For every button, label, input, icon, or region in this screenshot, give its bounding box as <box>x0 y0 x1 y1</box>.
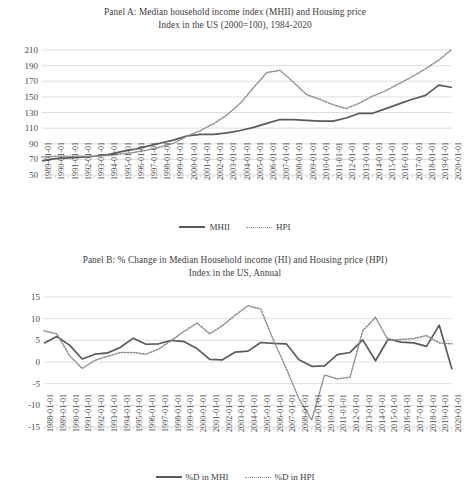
x-axis-tick-label: 2007-01-01 <box>283 142 291 180</box>
panel-b-title: Panel B: % Change in Median Household in… <box>0 250 470 279</box>
panel-a-title-line1: Panel A: Median household income index (… <box>0 6 470 19</box>
x-axis-tick-label: 1993-01-01 <box>98 142 106 180</box>
x-axis-tick-label: 2017-01-01 <box>416 142 424 180</box>
dotted-line-swatch-icon <box>245 477 271 478</box>
x-axis-tick-label: 1992-01-01 <box>85 142 93 180</box>
x-axis-tick-label: 1993-01-01 <box>111 394 119 432</box>
x-axis-tick-label: 2012-01-01 <box>353 394 361 432</box>
x-axis-tick-label: 2003-01-01 <box>230 142 238 180</box>
x-axis-tick-label: 2017-01-01 <box>417 394 425 432</box>
x-axis-tick-label: 1999-01-01 <box>187 394 195 432</box>
x-axis-tick-label: 2020-01-01 <box>455 394 463 432</box>
panel-a-chart <box>0 31 470 211</box>
x-axis-tick-label: 2019-01-01 <box>442 142 450 180</box>
x-axis-tick-label: 1990-01-01 <box>73 394 81 432</box>
panel-b: Panel B: % Change in Median Household in… <box>0 250 470 498</box>
legend-label: %D in MHI <box>186 472 229 482</box>
x-axis-tick-label: 2014-01-01 <box>379 394 387 432</box>
x-axis-tick-label: 2007-01-01 <box>289 394 297 432</box>
x-axis-tick-label: 2013-01-01 <box>366 394 374 432</box>
panel-a-legend-item[interactable]: MHII <box>179 222 230 232</box>
panel-a-legend-item[interactable]: HPI <box>246 222 291 232</box>
x-axis-tick-label: 2006-01-01 <box>277 394 285 432</box>
x-axis-tick-label: 2018-01-01 <box>430 394 438 432</box>
panel-b-legend-item[interactable]: %D in MHI <box>156 472 229 482</box>
x-axis-tick-label: 1992-01-01 <box>98 394 106 432</box>
x-axis-tick-label: 2018-01-01 <box>429 142 437 180</box>
solid-line-swatch-icon <box>179 226 205 228</box>
panel-b-plot-area: -15-10-50510151988-01-011989-01-011990-0… <box>0 279 470 459</box>
x-axis-tick-label: 2003-01-01 <box>238 394 246 432</box>
x-axis-tick-label: 2009-01-01 <box>315 394 323 432</box>
x-axis-tick-label: 2016-01-01 <box>402 142 410 180</box>
x-axis-tick-label: 2015-01-01 <box>391 394 399 432</box>
y-axis-tick-label: 90 <box>29 139 38 148</box>
y-axis-tick-label: 50 <box>29 171 38 180</box>
x-axis-tick-label: 2008-01-01 <box>302 394 310 432</box>
legend-label: HPI <box>276 222 291 232</box>
x-axis-tick-label: 1997-01-01 <box>162 394 170 432</box>
x-axis-tick-label: 2012-01-01 <box>349 142 357 180</box>
x-axis-tick-label: 2000-01-01 <box>191 142 199 180</box>
x-axis-tick-label: 2002-01-01 <box>217 142 225 180</box>
x-axis-tick-label: 1990-01-01 <box>58 142 66 180</box>
x-axis-tick-label: 2002-01-01 <box>226 394 234 432</box>
y-axis-tick-label: 0 <box>36 358 41 367</box>
y-axis-tick-label: 110 <box>25 124 38 133</box>
x-axis-tick-label: 2004-01-01 <box>251 394 259 432</box>
x-axis-tick-label: 1995-01-01 <box>136 394 144 432</box>
y-axis-tick-label: 70 <box>29 155 38 164</box>
x-axis-tick-label: 2005-01-01 <box>257 142 265 180</box>
x-axis-tick-label: 2004-01-01 <box>244 142 252 180</box>
x-axis-tick-label: 1988-01-01 <box>47 394 55 432</box>
y-axis-tick-label: 5 <box>36 336 41 345</box>
series-line-d-in-mhi <box>44 325 452 369</box>
panel-a-title: Panel A: Median household income index (… <box>0 0 470 31</box>
legend-label: MHII <box>209 222 230 232</box>
y-axis-tick-label: 150 <box>25 92 39 101</box>
y-axis-tick-label: -10 <box>28 401 40 410</box>
x-axis-tick-label: 1995-01-01 <box>125 142 133 180</box>
panel-a: Panel A: Median household income index (… <box>0 0 470 250</box>
x-axis-tick-label: 2014-01-01 <box>376 142 384 180</box>
x-axis-tick-label: 2001-01-01 <box>213 394 221 432</box>
dotted-line-swatch-icon <box>246 227 272 228</box>
x-axis-tick-label: 1994-01-01 <box>111 142 119 180</box>
x-axis-tick-label: 1999-01-01 <box>177 142 185 180</box>
x-axis-tick-label: 2000-01-01 <box>200 394 208 432</box>
y-axis-tick-label: 170 <box>25 77 39 86</box>
x-axis-tick-label: 1991-01-01 <box>85 394 93 432</box>
x-axis-tick-label: 2006-01-01 <box>270 142 278 180</box>
y-axis-tick-label: 10 <box>31 314 40 323</box>
panel-a-title-line2: Index in the US (2000=100), 1984-2020 <box>0 19 470 32</box>
y-axis-tick-label: -5 <box>33 379 41 388</box>
panel-b-title-line2: Index in the US, Annual <box>0 267 470 280</box>
legend-label: %D in HPI <box>275 472 315 482</box>
panel-b-legend: %D in MHI%D in HPI <box>0 472 470 482</box>
x-axis-tick-label: 1998-01-01 <box>175 394 183 432</box>
x-axis-tick-label: 2009-01-01 <box>310 142 318 180</box>
x-axis-tick-label: 2019-01-01 <box>442 394 450 432</box>
y-axis-tick-label: 210 <box>25 46 39 55</box>
panel-a-legend: MHIIHPI <box>0 222 470 232</box>
x-axis-tick-label: 2013-01-01 <box>363 142 371 180</box>
panel-b-legend-item[interactable]: %D in HPI <box>245 472 315 482</box>
x-axis-tick-label: 1997-01-01 <box>151 142 159 180</box>
x-axis-tick-label: 1994-01-01 <box>124 394 132 432</box>
x-axis-tick-label: 2005-01-01 <box>264 394 272 432</box>
x-axis-tick-label: 1998-01-01 <box>164 142 172 180</box>
x-axis-tick-label: 2010-01-01 <box>323 142 331 180</box>
x-axis-tick-label: 2016-01-01 <box>404 394 412 432</box>
x-axis-tick-label: 2015-01-01 <box>389 142 397 180</box>
x-axis-tick-label: 1996-01-01 <box>149 394 157 432</box>
x-axis-tick-label: 2008-01-01 <box>296 142 304 180</box>
solid-line-swatch-icon <box>156 476 182 478</box>
x-axis-tick-label: 2011-01-01 <box>336 142 344 180</box>
panel-a-plot-area: 5070901101301501701902101989-01-011990-0… <box>0 31 470 211</box>
x-axis-tick-label: 2020-01-01 <box>455 142 463 180</box>
y-axis-tick-label: 190 <box>25 61 39 70</box>
panel-b-title-line1: Panel B: % Change in Median Household in… <box>0 254 470 267</box>
panel-b-chart <box>0 279 470 459</box>
x-axis-tick-label: 2011-01-01 <box>340 394 348 432</box>
x-axis-tick-label: 1989-01-01 <box>45 142 53 180</box>
